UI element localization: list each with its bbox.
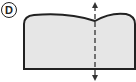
symmetry-figure xyxy=(0,0,136,82)
shape-outline xyxy=(24,14,135,69)
arrow-up-icon xyxy=(92,2,98,8)
arrow-down-icon xyxy=(92,75,98,81)
